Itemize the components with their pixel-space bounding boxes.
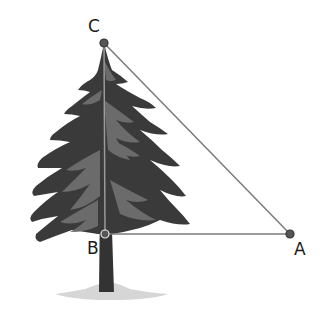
point-C — [100, 39, 108, 47]
triangle-tree-diagram — [0, 0, 332, 314]
label-B: B — [87, 240, 99, 257]
segment-CB — [104, 43, 105, 234]
tree-foliage — [30, 43, 190, 242]
label-C: C — [88, 18, 100, 35]
point-B — [101, 230, 109, 238]
label-A: A — [294, 241, 306, 258]
point-A — [286, 230, 294, 238]
